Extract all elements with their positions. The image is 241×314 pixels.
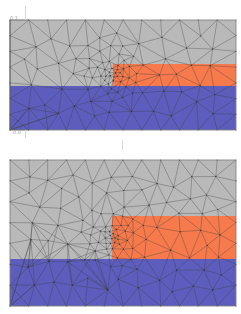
mesh-node: [67, 261, 68, 262]
mesh-node: [29, 176, 30, 177]
region-step-layer: [113, 64, 236, 86]
mesh-node: [98, 242, 99, 243]
mesh-node: [176, 270, 177, 271]
mesh-node: [94, 115, 95, 116]
mesh-node: [117, 92, 118, 93]
mesh-node: [122, 45, 123, 46]
mesh-node: [137, 269, 138, 270]
mesh-node: [109, 112, 110, 113]
mesh-node: [161, 37, 162, 38]
mesh-node: [118, 279, 119, 280]
mesh-node: [106, 249, 107, 250]
mesh-node: [54, 282, 55, 283]
mesh-node: [115, 72, 116, 73]
mesh-node: [100, 213, 101, 214]
mesh-node: [133, 232, 134, 233]
mesh-node: [113, 76, 114, 77]
mesh-node: [91, 210, 92, 211]
mesh-node: [34, 284, 35, 285]
mesh-node: [121, 225, 122, 226]
mesh-node: [117, 69, 118, 70]
mesh-node: [136, 73, 137, 74]
mesh-node: [157, 183, 158, 184]
mesh-node: [121, 265, 122, 266]
mesh-node: [186, 48, 187, 49]
mesh-node: [29, 192, 30, 193]
mesh-node: [61, 188, 62, 189]
mesh-node: [67, 243, 68, 244]
mesh-node: [181, 91, 182, 92]
mesh-node: [24, 59, 25, 60]
axis-tick-mid: [122, 140, 123, 150]
mesh-node: [50, 38, 51, 39]
mesh-node: [118, 235, 119, 236]
mesh-node: [129, 77, 130, 78]
mesh-node: [196, 101, 197, 102]
mesh-node: [172, 291, 173, 292]
mesh-node: [191, 65, 192, 66]
mesh-node: [122, 97, 123, 98]
mesh-node: [47, 180, 48, 181]
mesh-node: [221, 274, 222, 275]
mesh-node: [159, 280, 160, 281]
mesh-node: [119, 244, 120, 245]
mesh-node: [215, 176, 216, 177]
mesh-node: [117, 65, 118, 66]
mesh-node: [166, 202, 167, 203]
mesh-node: [107, 289, 108, 290]
mesh-node: [36, 46, 37, 47]
mesh-node: [191, 176, 192, 177]
mesh-node: [123, 190, 124, 191]
mesh-node: [106, 192, 107, 193]
mesh-node: [81, 232, 82, 233]
mesh-node: [112, 225, 113, 226]
mesh-node: [109, 61, 110, 62]
mesh-node: [200, 85, 201, 86]
mesh-node: [82, 220, 83, 221]
mesh-node: [129, 66, 130, 67]
mesh-node: [100, 76, 101, 77]
mesh-node: [133, 56, 134, 57]
mesh-node: [30, 239, 31, 240]
mesh-node: [109, 231, 110, 232]
mesh-node: [104, 69, 105, 70]
mesh-node: [122, 76, 123, 77]
mesh-node: [132, 176, 133, 177]
mesh-node: [210, 65, 211, 66]
mesh-node: [116, 229, 117, 230]
mesh-node: [143, 65, 144, 66]
mesh-node: [44, 104, 45, 105]
mesh-node: [146, 239, 147, 240]
mesh-node: [163, 91, 164, 92]
mesh-node: [72, 285, 73, 286]
mesh-node: [123, 68, 124, 69]
mesh-node: [90, 101, 91, 102]
mesh-node: [107, 93, 108, 94]
mesh-node: [214, 94, 215, 95]
mesh-node: [48, 261, 49, 262]
mesh-node: [206, 194, 207, 195]
mesh-node: [176, 74, 177, 75]
mesh-node: [110, 243, 111, 244]
mesh-node: [69, 45, 70, 46]
mesh-node: [28, 267, 29, 268]
mesh-node: [87, 45, 88, 46]
mesh-node: [111, 68, 112, 69]
mesh-node: [115, 237, 116, 238]
mesh-node: [108, 83, 109, 84]
mesh-node: [189, 257, 190, 258]
mesh-node: [144, 257, 145, 258]
mesh-node: [207, 245, 208, 246]
mesh-node: [218, 256, 219, 257]
mesh-figure: [0, 0, 241, 314]
mesh-node: [124, 207, 125, 208]
mesh-node: [84, 76, 85, 77]
mesh-node: [75, 58, 76, 59]
mesh-node: [110, 75, 111, 76]
mesh-node: [93, 227, 94, 228]
mesh-node: [31, 84, 32, 85]
mesh-node: [212, 113, 213, 114]
mesh-node: [179, 231, 180, 232]
axis-tick-bottom: [25, 130, 26, 138]
mesh-node: [125, 231, 126, 232]
